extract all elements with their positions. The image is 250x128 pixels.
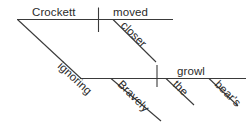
diagram-canvas: Crockett moved closer ignoring Bravely g… [0,0,250,128]
label-growl: growl [177,65,205,77]
label-moved: moved [113,6,148,18]
label-bears: bear's [213,78,244,109]
sentence-diagram: Crockett moved closer ignoring Bravely g… [0,0,250,128]
label-closer: closer [119,19,150,50]
label-the: the [171,78,191,98]
label-crockett: Crockett [32,6,76,18]
label-bravely: Bravely [116,78,152,114]
